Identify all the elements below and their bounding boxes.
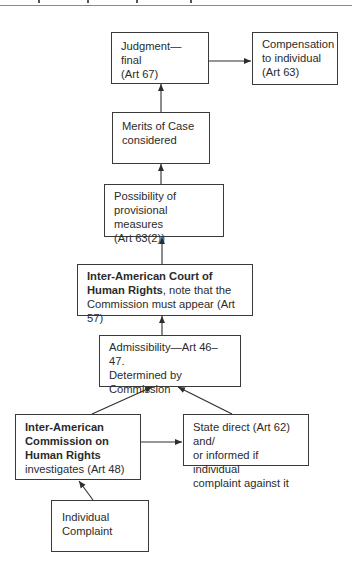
arrow-individual-to-commission — [79, 481, 93, 500]
header-text-fragment — [190, 0, 192, 3]
node-judgment-final: Judgment—final (Art 67) — [111, 32, 209, 84]
node-text: considered — [122, 133, 201, 147]
node-text: Merits of Case — [122, 119, 201, 133]
header-text-fragment — [136, 0, 138, 3]
node-text: Commission — [109, 382, 232, 396]
node-text: Determined by — [109, 368, 232, 382]
node-inter-american-court: Inter-American Court of Human Rights, no… — [77, 264, 253, 316]
node-merits-of-case: Merits of Case considered — [112, 112, 210, 164]
node-state-direct: State direct (Art 62) and/ or informed i… — [183, 414, 309, 466]
node-compensation: Compensation to individual (Art 63) — [252, 32, 338, 85]
node-provisional-measures: Possibility of provisional measures (Art… — [104, 184, 224, 237]
node-text: , note that the — [163, 284, 231, 296]
node-text: State direct (Art 62) and/ — [193, 420, 300, 448]
header-text-fragment — [38, 0, 40, 3]
node-text: (Art 63(2)) — [114, 231, 215, 245]
node-admissibility: Admissibility—Art 46–47. Determined by C… — [99, 335, 241, 387]
node-text: Admissibility—Art 46–47. — [109, 340, 232, 368]
node-text: investigates (Art 48) — [25, 462, 132, 476]
node-text: Compensation — [262, 37, 329, 51]
node-text: provisional measures — [114, 203, 215, 231]
node-text-bold: Inter-American Court of — [87, 269, 244, 283]
node-text-bold: Commission on — [25, 434, 132, 448]
node-text: Complaint — [62, 524, 140, 538]
node-text: (Art 67) — [121, 67, 200, 81]
node-text: (Art 63) — [262, 65, 329, 79]
node-text: Commission must appear (Art 57) — [87, 297, 244, 325]
node-text: to individual — [262, 51, 329, 65]
node-text-bold: Inter-American — [25, 420, 132, 434]
node-text-bold: Human Rights — [87, 284, 163, 296]
header-text-fragment — [87, 0, 89, 3]
node-text-bold: Human Rights — [25, 448, 132, 462]
node-inter-american-commission: Inter-American Commission on Human Right… — [15, 414, 141, 480]
node-individual-complaint: Individual Complaint — [51, 500, 149, 552]
node-text: complaint against it — [193, 476, 300, 490]
node-text: Possibility of — [114, 189, 215, 203]
node-text: Individual — [62, 510, 140, 524]
node-text: or informed if individual — [193, 448, 300, 476]
node-text: Judgment—final — [121, 39, 200, 67]
page-header-rule — [0, 5, 352, 6]
